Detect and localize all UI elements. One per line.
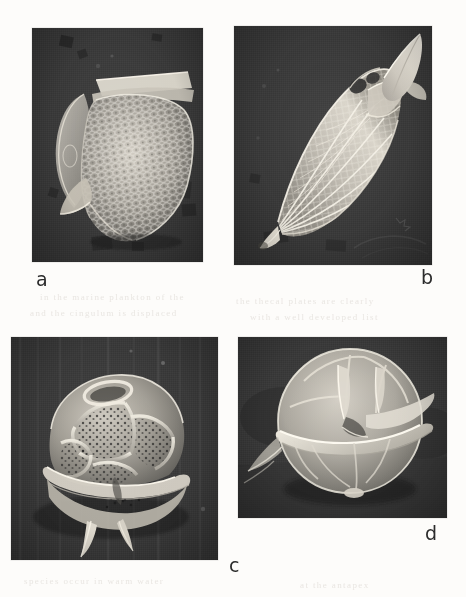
ghost-text-line: at the antapex: [300, 580, 370, 590]
panel-label-d: d: [425, 524, 437, 543]
figure-plate: in the marine plankton of thethe thecal …: [0, 0, 466, 597]
ghost-text-line: with a well developed list: [250, 312, 379, 322]
micrograph-panel-a: [32, 28, 203, 262]
ghost-text-line: the thecal plates are clearly: [236, 296, 375, 306]
panel-vignette-a: [32, 28, 203, 262]
panel-vignette-b: [234, 26, 432, 265]
ghost-text-line: and the cingulum is displaced: [30, 308, 178, 318]
panel-vignette-d: [238, 337, 447, 518]
panel-vignette-c: [11, 337, 218, 560]
ghost-text-line: in the marine plankton of the: [40, 292, 185, 302]
micrograph-panel-c: [11, 337, 218, 560]
panel-label-a: a: [36, 270, 48, 289]
micrograph-panel-d: [238, 337, 447, 518]
ghost-text-line: species occur in warm water: [24, 576, 164, 586]
micrograph-panel-b: [234, 26, 432, 265]
panel-label-c: c: [229, 556, 239, 575]
panel-label-b: b: [421, 268, 433, 287]
